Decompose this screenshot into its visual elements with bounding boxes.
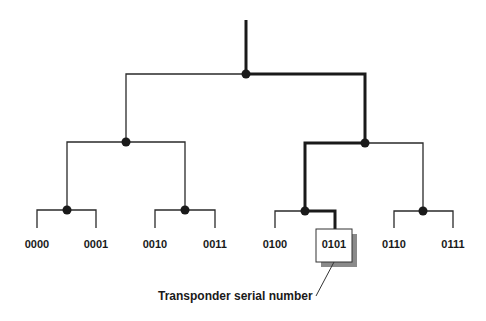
edge-root-left [126, 74, 246, 142]
edge-r-left [305, 143, 365, 211]
leaf-label: 0010 [143, 238, 167, 250]
leaf-label: 0110 [382, 238, 406, 250]
annotation-leader-line [316, 262, 334, 296]
leaf-label-highlighted: 0101 [322, 238, 346, 250]
fork-0101-right [305, 211, 335, 229]
node-00 [63, 206, 72, 215]
edge-root-right [246, 74, 365, 143]
edge-l-right [126, 142, 185, 210]
node-root [242, 70, 251, 79]
edge-l-left [67, 142, 126, 210]
node-10 [301, 207, 310, 216]
leaf-label: 0111 [441, 238, 464, 250]
leaf-label: 0001 [84, 238, 108, 250]
node-0 [122, 138, 131, 147]
node-01 [181, 206, 190, 215]
node-11 [419, 207, 428, 216]
leaf-label: 0011 [203, 238, 227, 250]
fork-0100-left [275, 211, 305, 228]
annotation-text: Transponder serial number [158, 289, 313, 303]
leaf-label: 0100 [263, 238, 287, 250]
binary-tree-diagram: 0000 0001 0010 0011 0100 0101 0110 0111 … [0, 0, 486, 321]
node-1 [361, 139, 370, 148]
edge-r-right [365, 143, 423, 211]
leaf-label: 0000 [25, 238, 49, 250]
